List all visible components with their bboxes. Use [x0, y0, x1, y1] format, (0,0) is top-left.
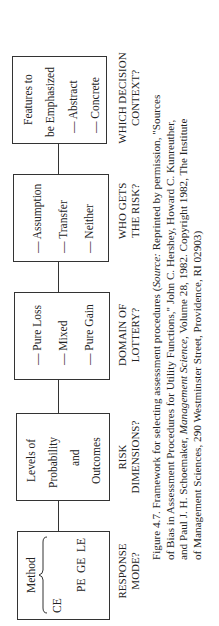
box-risk-dimensions: Levels of Probability and Outcomes — [16, 413, 110, 501]
box-domain-of-lottery: — Pure Loss — Mixed — Pure Gain — [14, 292, 110, 380]
box-line: Levels of — [26, 439, 38, 482]
box-line: — Assumption — [32, 184, 44, 253]
connector-line — [58, 262, 59, 292]
caption-line-4: of Management Sciences, 290 Westminster … — [191, 44, 205, 560]
box-line: be Emphasized — [45, 67, 57, 137]
connector-line — [58, 501, 59, 531]
box-line: Probability — [48, 437, 60, 488]
caption-line-1: Figure 4.7. Framework for selecting asse… — [150, 44, 164, 560]
question-decision-context: WHICH DECISION CONTEXT? — [116, 50, 142, 146]
box-who-gets-risk: — Assumption — Transfer — Neither — [13, 174, 109, 262]
box-line: — Neither — [84, 204, 96, 253]
brace-icon — [38, 536, 48, 614]
method-label: Method — [26, 557, 38, 593]
box-decision-context: Features to be Emphasized — Abstract — C… — [12, 56, 107, 144]
box-line: — Abstract — [68, 80, 80, 133]
box-line: — Pure Gain — [84, 304, 96, 365]
caption-line-2: of Bias in Assessment Procedures for Uti… — [164, 44, 178, 560]
box-line: — Transfer — [58, 200, 70, 253]
question-risk-dimensions: RISK DIMENSIONS? — [116, 413, 142, 501]
question-who-gets-risk: WHO GETS THE RISK? — [116, 176, 142, 246]
figure-caption: Figure 4.7. Framework for selecting asse… — [150, 44, 204, 560]
box-line: — Concrete — [90, 77, 102, 133]
box-line: — Mixed — [58, 321, 70, 365]
box-response-mode: Method CE PE GE LE — [17, 531, 110, 620]
box-line: and — [70, 449, 82, 466]
box-line: — Pure Loss — [32, 305, 44, 365]
box-line: Features to — [23, 74, 35, 125]
method-item: GE — [76, 558, 88, 573]
method-item: PE — [76, 579, 88, 592]
caption-line-3: and Paul J. H. Schoemaker, Management Sc… — [177, 44, 191, 560]
method-item: LE — [76, 538, 88, 552]
method-item: CE — [52, 598, 64, 613]
connector-line — [58, 144, 59, 174]
figure-4-7: Method CE PE GE LE Levels of Probability… — [0, 0, 219, 626]
box-line: Outcomes — [91, 437, 103, 484]
question-domain-of-lottery: DOMAIN OF LOTTERY? — [116, 292, 142, 378]
question-response-mode: RESPONSE MODE? — [116, 536, 142, 606]
connector-line — [58, 380, 59, 413]
